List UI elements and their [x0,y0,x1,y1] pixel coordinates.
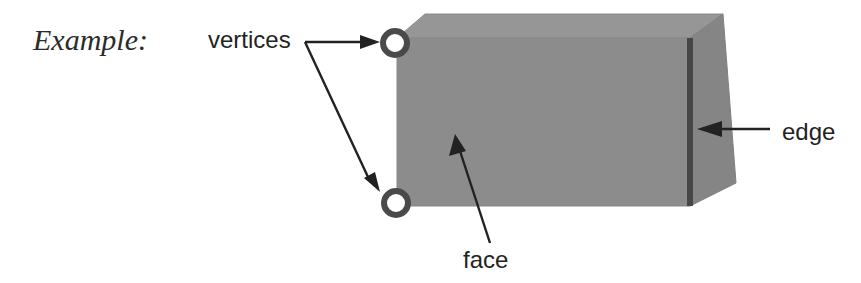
vertices-leader-line-bottom [305,42,368,177]
prism-vertical-edge-highlight [687,38,693,206]
vertices-arrowhead-top [360,35,380,49]
face-label: face [463,246,508,273]
vertices-label: vertices [208,26,291,53]
vertex-marker-bottom [384,191,408,215]
prism-top-face [397,14,723,38]
figure-canvas: vertices face [0,0,861,283]
prism-right-face [690,14,736,206]
example-caption: Example: [32,23,148,56]
rectangular-prism-solid [397,14,736,206]
prism-front-face [397,38,690,206]
vertex-marker-top [383,31,407,55]
edge-label: edge [782,118,835,145]
vertices-annotation: vertices [208,26,408,215]
geometry-diagram: vertices face [0,0,861,283]
